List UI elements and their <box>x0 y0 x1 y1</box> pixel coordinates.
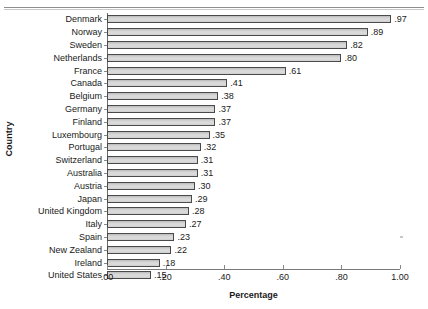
bar-row: Germany.37 <box>107 103 400 116</box>
bar-row: Finland.37 <box>107 115 400 128</box>
category-label: Norway <box>71 27 102 37</box>
bar-row: Spain.23 <box>107 231 400 244</box>
bar-value-label: .80 <box>344 53 357 63</box>
page-divider-rule-secondary <box>4 9 424 10</box>
x-axis-tick-mark <box>224 265 225 269</box>
category-label: Germany <box>65 104 102 114</box>
bar <box>107 105 215 113</box>
category-label: Austria <box>74 181 102 191</box>
category-label: United States <box>48 270 102 280</box>
bar-value-label: .29 <box>195 194 208 204</box>
bar-row: Switzerland.31 <box>107 154 400 167</box>
y-axis-title: Country <box>4 109 14 169</box>
x-axis-tick-mark <box>283 265 284 269</box>
category-label: Luxembourg <box>52 130 102 140</box>
bar-value-label: .37 <box>218 117 231 127</box>
bar <box>107 118 215 126</box>
category-label: Japan <box>77 194 102 204</box>
bar-row: Norway.89 <box>107 26 400 39</box>
bar <box>107 131 210 139</box>
bar-value-label: .35 <box>213 130 226 140</box>
bar-value-label: .32 <box>204 142 217 152</box>
x-axis-tick-mark <box>107 265 108 269</box>
bar-row: France.61 <box>107 64 400 77</box>
bar <box>107 220 186 228</box>
bar-value-label: .31 <box>201 168 214 178</box>
bar-row: Sweden.82 <box>107 39 400 52</box>
bar <box>107 67 286 75</box>
bar-value-label: .37 <box>218 104 231 114</box>
x-axis-tick-mark <box>400 265 401 269</box>
bar-value-label: .97 <box>394 14 407 24</box>
bar-row: Austria.30 <box>107 179 400 192</box>
bar-value-label: .38 <box>221 91 234 101</box>
bar <box>107 182 195 190</box>
bar-row: Ireland.18 <box>107 256 400 269</box>
bar-row: Portugal.32 <box>107 141 400 154</box>
x-axis-tick-label: .20 <box>159 272 172 282</box>
bar-value-label: .23 <box>177 232 190 242</box>
bar-row: Italy.27 <box>107 218 400 231</box>
category-label: Canada <box>70 78 102 88</box>
bar <box>107 92 218 100</box>
bar-value-label: .82 <box>350 40 363 50</box>
x-axis-tick-label: .00 <box>101 272 114 282</box>
scan-artifact-speck-right <box>400 236 403 238</box>
category-label: France <box>74 66 102 76</box>
x-axis-tick-label: 1.00 <box>391 272 409 282</box>
x-axis-tick-label: .40 <box>218 272 231 282</box>
bar-row: United Kingdom.28 <box>107 205 400 218</box>
bar-value-label: .61 <box>289 66 302 76</box>
category-label: Finland <box>72 117 102 127</box>
category-label: Switzerland <box>55 155 102 165</box>
bar-row: Canada.41 <box>107 77 400 90</box>
category-label: Denmark <box>65 14 102 24</box>
bar <box>107 79 227 87</box>
bar-value-label: .28 <box>192 206 205 216</box>
bar <box>107 15 391 23</box>
page-divider-rule <box>4 7 424 8</box>
bar-row: New Zealand.22 <box>107 243 400 256</box>
bar-row: Netherlands.80 <box>107 51 400 64</box>
bar <box>107 207 189 215</box>
plot-area: Denmark.97Norway.89Sweden.82Netherlands.… <box>107 13 400 268</box>
x-axis-title: Percentage <box>107 290 400 300</box>
bar <box>107 28 368 36</box>
bar <box>107 195 192 203</box>
category-label: Italy <box>85 219 102 229</box>
bar-value-label: .89 <box>371 27 384 37</box>
bar <box>107 259 160 267</box>
x-axis-tick-mark <box>166 265 167 269</box>
bar-value-label: .30 <box>198 181 211 191</box>
bar-chart-figure: Country Denmark.97Norway.89Sweden.82Neth… <box>0 0 428 309</box>
x-axis-tick-label: .80 <box>335 272 348 282</box>
bar-row: Denmark.97 <box>107 13 400 26</box>
x-axis-tick-label: .60 <box>277 272 290 282</box>
bar <box>107 156 198 164</box>
bar <box>107 41 347 49</box>
bar-rows-container: Denmark.97Norway.89Sweden.82Netherlands.… <box>107 13 400 282</box>
bar <box>107 246 171 254</box>
bar-value-label: .22 <box>174 245 187 255</box>
x-axis-tick-mark <box>341 265 342 269</box>
category-label: New Zealand <box>49 245 102 255</box>
category-label: Australia <box>67 168 102 178</box>
bar-row: Luxembourg.35 <box>107 128 400 141</box>
category-label: Portugal <box>68 142 102 152</box>
category-label: Sweden <box>69 40 102 50</box>
bar-value-label: .27 <box>189 219 202 229</box>
category-label: United Kingdom <box>38 206 102 216</box>
bar-value-label: .31 <box>201 155 214 165</box>
bar-value-label: .41 <box>230 78 243 88</box>
x-axis-ticks: .00.20.40.60.801.00 <box>107 269 400 291</box>
bar-row: Belgium.38 <box>107 90 400 103</box>
category-label: Ireland <box>74 258 102 268</box>
category-label: Spain <box>79 232 102 242</box>
bar <box>107 169 198 177</box>
bar <box>107 54 341 62</box>
bar <box>107 143 201 151</box>
bar-row: Australia.31 <box>107 167 400 180</box>
category-label: Belgium <box>69 91 102 101</box>
category-label: Netherlands <box>53 53 102 63</box>
bar-row: Japan.29 <box>107 192 400 205</box>
